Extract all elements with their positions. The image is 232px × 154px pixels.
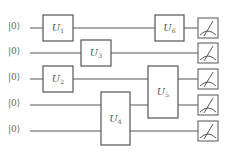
meter-icon xyxy=(198,69,218,89)
gate-label-u6: U6 xyxy=(163,23,175,34)
meter-icon xyxy=(198,95,218,115)
gate-label-u5: U5 xyxy=(157,87,169,98)
meter-icon xyxy=(198,43,218,63)
qubit-init-label: |0⟩ xyxy=(8,99,20,108)
gate-label-u3: U3 xyxy=(90,48,102,59)
gate-label-u1: U1 xyxy=(52,23,64,34)
quantum-circuit xyxy=(0,0,232,154)
qubit-init-label: |0⟩ xyxy=(8,47,20,56)
qubit-init-label: |0⟩ xyxy=(8,22,20,31)
gate-label-u2: U2 xyxy=(52,74,64,85)
qubit-init-label: |0⟩ xyxy=(8,125,20,134)
qubit-init-label: |0⟩ xyxy=(8,73,20,82)
meter-icon xyxy=(198,18,218,38)
meter-icon xyxy=(198,121,218,141)
gate-label-u4: U4 xyxy=(109,113,121,124)
